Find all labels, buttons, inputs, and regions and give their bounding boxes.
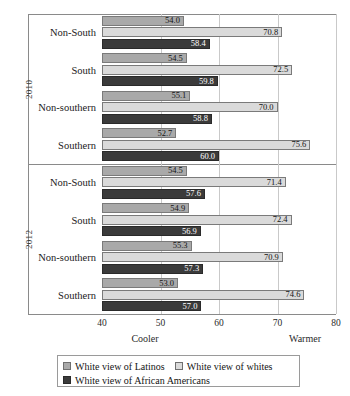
bar-white-view-of-latinos: 54.5: [102, 166, 187, 176]
axis-anchor-warmer: Warmer: [268, 333, 342, 344]
bar-value-label: 54.0: [165, 16, 183, 25]
category-label-non-south: Non-South: [50, 14, 96, 52]
x-tick-50: 50: [141, 318, 181, 328]
bar-group: 53.074.657.0: [102, 277, 336, 315]
bar-white-view-of-whites: 72.5: [102, 65, 292, 75]
bar-white-view-of-latinos: 55.3: [102, 241, 192, 251]
axis-anchor-cooler: Cooler: [105, 333, 185, 344]
legend-label-latinos: White view of Latinos: [75, 361, 165, 372]
category-label-non-south: Non-South: [50, 164, 96, 202]
category-label-south: South: [71, 52, 96, 90]
category-label-southern: Southern: [58, 127, 96, 165]
bar-group: 52.775.660.0: [102, 127, 336, 165]
year-group-2012: 2012Non-South54.571.457.6South54.972.456…: [0, 164, 350, 314]
bar-white-view-of-whites: 74.6: [102, 290, 304, 300]
bar-white-view-of-african-americans: 56.9: [102, 226, 201, 236]
legend-item-african-americans: White view of African Americans: [63, 375, 210, 386]
category-row: Non-South54.070.858.4: [0, 14, 350, 52]
year-group-2010: 2010Non-South54.070.858.4South54.572.559…: [0, 14, 350, 164]
legend-item-latinos: White view of Latinos: [63, 361, 165, 372]
bar-value-label: 54.5: [168, 54, 186, 63]
bar-value-label: 70.8: [263, 28, 281, 37]
category-row: Non-South54.571.457.6: [0, 164, 350, 202]
bar-value-label: 59.8: [199, 77, 217, 86]
bar-group: 54.070.858.4: [102, 14, 336, 52]
bar-white-view-of-whites: 70.8: [102, 27, 282, 37]
bar-group: 55.170.058.8: [102, 89, 336, 127]
bar-group: 54.972.456.9: [102, 202, 336, 240]
bar-value-label: 57.6: [186, 189, 204, 198]
bar-white-view-of-whites: 71.4: [102, 177, 286, 187]
category-label-non-southern: Non-southern: [38, 89, 96, 127]
bar-value-label: 57.3: [184, 264, 202, 273]
bar-value-label: 54.5: [168, 166, 186, 175]
x-tick-70: 70: [258, 318, 298, 328]
bar-white-view-of-latinos: 54.5: [102, 53, 187, 63]
bar-value-label: 74.6: [286, 290, 304, 299]
bar-value-label: 72.4: [273, 215, 291, 224]
bar-value-label: 58.8: [193, 114, 211, 123]
bar-white-view-of-latinos: 54.9: [102, 203, 189, 213]
bar-white-view-of-latinos: 52.7: [102, 128, 176, 138]
bar-value-label: 58.4: [191, 39, 209, 48]
legend-label-whites: White view of whites: [187, 361, 273, 372]
x-tick-60: 60: [199, 318, 239, 328]
bar-chart: 2010Non-South54.070.858.4South54.572.559…: [0, 0, 350, 396]
legend-item-whites: White view of whites: [175, 361, 273, 372]
bar-value-label: 70.9: [264, 253, 282, 262]
bar-value-label: 54.9: [170, 204, 188, 213]
legend-swatch-icon-african-americans: [63, 376, 71, 384]
bar-white-view-of-african-americans: 58.8: [102, 114, 212, 124]
legend-row-2: White view of African Americans: [63, 373, 294, 387]
bar-white-view-of-latinos: 55.1: [102, 91, 190, 101]
bar-white-view-of-african-americans: 58.4: [102, 39, 210, 49]
legend-swatch-icon-whites: [175, 362, 183, 370]
x-tick-40: 40: [82, 318, 122, 328]
category-label-non-southern: Non-southern: [38, 239, 96, 277]
category-label-southern: Southern: [58, 277, 96, 315]
category-row: Non-southern55.370.957.3: [0, 239, 350, 277]
bar-white-view-of-african-americans: 57.0: [102, 301, 201, 311]
bar-white-view-of-latinos: 53.0: [102, 278, 178, 288]
category-row: Southern52.775.660.0: [0, 127, 350, 165]
chart-legend: White view of Latinos White view of whit…: [57, 355, 300, 387]
bar-group: 54.571.457.6: [102, 164, 336, 202]
bar-white-view-of-african-americans: 57.3: [102, 264, 203, 274]
bar-white-view-of-latinos: 54.0: [102, 16, 184, 26]
bar-value-label: 57.0: [183, 302, 201, 311]
bar-value-label: 72.5: [273, 65, 291, 74]
bar-value-label: 71.4: [267, 178, 285, 187]
category-row: Non-southern55.170.058.8: [0, 89, 350, 127]
bar-value-label: 53.0: [159, 279, 177, 288]
bar-group: 55.370.957.3: [102, 239, 336, 277]
bar-white-view-of-african-americans: 60.0: [102, 151, 219, 161]
bar-white-view-of-whites: 72.4: [102, 215, 292, 225]
legend-swatch-icon-latinos: [63, 362, 71, 370]
bar-value-label: 56.9: [182, 227, 200, 236]
legend-row-1: White view of Latinos White view of whit…: [63, 359, 294, 373]
bar-white-view-of-whites: 70.0: [102, 102, 278, 112]
bar-white-view-of-african-americans: 59.8: [102, 76, 218, 86]
bar-white-view-of-whites: 75.6: [102, 140, 310, 150]
bar-value-label: 60.0: [200, 152, 218, 161]
category-row: Southern53.074.657.0: [0, 277, 350, 315]
bar-value-label: 52.7: [157, 129, 175, 138]
bar-value-label: 75.6: [291, 140, 309, 149]
category-label-south: South: [71, 202, 96, 240]
bar-value-label: 70.0: [259, 103, 277, 112]
category-row: South54.972.456.9: [0, 202, 350, 240]
bar-value-label: 55.3: [173, 241, 191, 250]
x-tick-80: 80: [316, 318, 350, 328]
legend-label-african-americans: White view of African Americans: [75, 375, 210, 386]
bar-white-view-of-african-americans: 57.6: [102, 189, 205, 199]
category-row: South54.572.559.8: [0, 52, 350, 90]
bar-group: 54.572.559.8: [102, 52, 336, 90]
x-axis-line: [102, 314, 336, 315]
bar-white-view-of-whites: 70.9: [102, 252, 283, 262]
bar-value-label: 55.1: [171, 91, 189, 100]
